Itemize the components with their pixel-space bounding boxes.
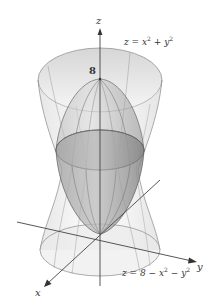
eq2-exp2: 2 — [186, 266, 190, 273]
upper-paraboloid-equation: z = x2 + y2 — [124, 36, 173, 47]
eq2-mid: − y — [168, 268, 186, 278]
eq1-exp2: 2 — [169, 35, 173, 42]
z-intercept-point — [99, 78, 101, 80]
surface-plot — [0, 0, 210, 306]
eq1-lhs: z = x — [124, 37, 147, 47]
z-axis-label: z — [96, 16, 101, 26]
paraboloid-intersection-figure: z y x 8 z = x2 + y2 z = 8 − x2 − y2 — [0, 0, 210, 306]
z-intercept-label: 8 — [89, 66, 96, 76]
lower-paraboloid-equation: z = 8 − x2 − y2 — [122, 267, 190, 278]
eq1-mid: + y — [151, 37, 169, 47]
y-axis-arrowhead — [188, 258, 197, 264]
eq2-lhs: z = 8 − x — [122, 268, 164, 278]
x-axis-label: x — [35, 288, 41, 298]
y-axis-label: y — [197, 262, 203, 272]
z-axis-arrowhead — [98, 28, 103, 35]
